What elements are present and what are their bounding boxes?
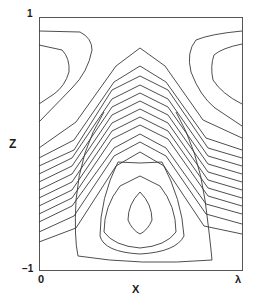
contour-upper-right-inner <box>212 44 242 104</box>
y-tick-bottom: −1 <box>22 264 33 274</box>
chevron-4 <box>39 85 242 174</box>
contour-upper-left-outer <box>39 31 92 122</box>
chevron-5 <box>39 93 242 182</box>
plot-frame <box>40 18 243 271</box>
y-tick-top: 1 <box>27 9 33 19</box>
contour-plot <box>0 0 256 301</box>
x-tick-left: 0 <box>38 274 44 285</box>
x-axis-label: X <box>132 284 139 295</box>
chevron-7 <box>39 109 242 198</box>
chevron-1 <box>39 48 242 148</box>
contour-bottom-cell-middle <box>104 176 176 248</box>
x-tick-right: λ <box>235 274 241 285</box>
chevron-10 <box>39 134 242 222</box>
y-axis-label: Z <box>9 138 16 150</box>
contour-bottom-u-1 <box>75 112 212 262</box>
chevron-2 <box>39 66 242 158</box>
contour-lines <box>39 31 242 262</box>
contour-bottom-cell-inner <box>128 192 152 234</box>
chevron-11 <box>39 142 242 232</box>
chevron-9 <box>39 125 242 214</box>
